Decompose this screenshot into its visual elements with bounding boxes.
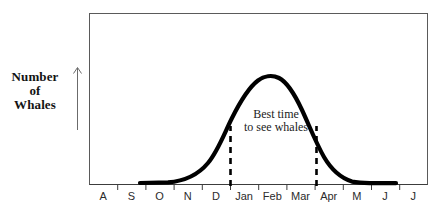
y-axis-label-line-1: Number bbox=[2, 70, 68, 84]
x-tick-label-4: D bbox=[212, 190, 220, 202]
x-tick-label-10: J bbox=[382, 190, 388, 202]
whale-population-chart: Number of Whales bbox=[0, 0, 442, 220]
x-tick-label-5: Jan bbox=[235, 190, 253, 202]
x-tick-label-1: S bbox=[128, 190, 135, 202]
y-axis-label-line-2: of bbox=[2, 84, 68, 98]
x-axis-labels: A S O N D Jan Feb Mar Apr M J J bbox=[89, 190, 428, 208]
best-time-annotation-line-2: to see whales bbox=[234, 121, 318, 134]
y-axis-label-line-3: Whales bbox=[2, 98, 68, 112]
best-time-annotation: Best time to see whales bbox=[234, 108, 318, 134]
y-axis-label: Number of Whales bbox=[2, 70, 68, 112]
x-tick-label-6: Feb bbox=[263, 190, 282, 202]
x-tick-label-2: O bbox=[155, 190, 164, 202]
x-tick-label-7: Mar bbox=[291, 190, 310, 202]
plot-area bbox=[89, 13, 428, 185]
x-tick-label-11: J bbox=[411, 190, 417, 202]
x-tick-label-3: N bbox=[184, 190, 192, 202]
y-axis-arrow-icon bbox=[68, 64, 88, 132]
x-tick-label-8: Apr bbox=[320, 190, 337, 202]
x-tick-label-0: A bbox=[99, 190, 106, 202]
x-tick-label-9: M bbox=[352, 190, 361, 202]
